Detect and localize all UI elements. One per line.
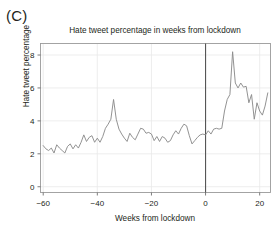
data-series-line [43,52,268,153]
svg-text:2: 2 [30,150,35,159]
svg-text:8: 8 [30,51,35,60]
svg-text:20: 20 [255,199,264,208]
figure-panel-c: (C) Hate tweet percentage in weeks from … [0,0,280,233]
svg-text:−40: −40 [91,199,105,208]
svg-text:−60: −60 [36,199,50,208]
svg-text:−20: −20 [145,199,159,208]
svg-text:6: 6 [30,84,35,93]
tick-labels: 02468−60−40−20020 [30,51,265,207]
plot-frame [41,44,271,193]
svg-text:0: 0 [203,199,208,208]
grid-lines [41,44,271,193]
line-chart-plot: 02468−60−40−20020 [0,0,280,233]
svg-text:4: 4 [30,117,35,126]
svg-text:0: 0 [30,183,35,192]
axis-ticks [38,55,260,195]
